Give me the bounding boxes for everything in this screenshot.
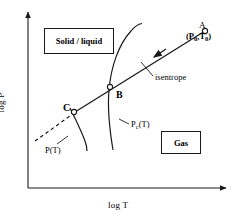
- coords-open: (P: [186, 31, 194, 41]
- region-label-solid-liquid: Solid / liquid: [44, 28, 114, 54]
- pt-curve-label: P(T): [45, 146, 61, 155]
- coords-subscript-pressure: 0: [194, 35, 197, 42]
- pc-curve-label: Pc(T): [131, 120, 149, 129]
- point-a-coordinates-label: (P0,T0): [186, 32, 211, 41]
- y-axis-title: log P: [0, 93, 6, 113]
- pc-leader-line: [119, 119, 129, 124]
- region-gas-text: Gas: [174, 138, 188, 148]
- point-b-label: B: [116, 90, 123, 100]
- isentrope-label: isentrope: [155, 73, 186, 82]
- phase-diagram-figure: Solid / liquid Gas A (P0,T0) B C isentro…: [0, 0, 237, 220]
- point-b-marker: [107, 84, 112, 89]
- pc-label-suffix: (T): [139, 119, 150, 129]
- point-c-label: C: [63, 103, 70, 113]
- region-label-gas: Gas: [161, 131, 201, 154]
- point-c-marker: [71, 109, 76, 114]
- x-axis-title: log T: [108, 201, 128, 210]
- pt-leader-line: [57, 136, 68, 144]
- coords-subscript-temperature: 0: [205, 35, 208, 42]
- region-solid-liquid-text: Solid / liquid: [56, 36, 102, 46]
- point-a-label: A: [199, 21, 206, 30]
- coords-middle: ,T: [197, 31, 205, 41]
- pc-label-subscript: c: [136, 123, 139, 130]
- isentrope-dashed-segment: [35, 116, 70, 141]
- coords-close: ): [208, 31, 211, 41]
